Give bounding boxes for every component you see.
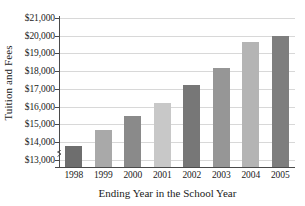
bar-slot [118,16,148,167]
plot-area [59,16,295,168]
y-axis-tick-label: $16,000 [25,102,55,112]
y-axis-tick-label: $20,000 [25,31,55,41]
y-axis-tick-label: $18,000 [25,66,55,76]
x-axis-tick-label: 2001 [148,170,178,184]
x-axis-tick-label: 2005 [266,170,296,184]
bar-slot [177,16,207,167]
y-axis-tick-label: $15,000 [25,119,55,129]
bar-1998 [65,146,82,167]
bar-2004 [242,42,259,167]
bar-slot [236,16,266,167]
x-axis-tick-label: 2003 [207,170,237,184]
bar-slot [207,16,237,167]
y-axis-tick-label: $14,000 [25,137,55,147]
y-axis-tick-label: $19,000 [25,48,55,58]
bar-2001 [154,103,171,167]
x-axis-tick-label: 2004 [236,170,266,184]
bar-slot [148,16,178,167]
y-axis-tick-labels: $13,000$14,000$15,000$16,000$17,000$18,0… [16,14,57,150]
y-axis-tick-label: $21,000 [25,13,55,23]
y-axis-tick-label: $13,000 [25,155,55,165]
x-axis-tick-label: 2002 [177,170,207,184]
y-axis-title: Tuition and Fees [0,0,16,166]
x-axis-line [55,167,295,168]
x-axis-tick-label: 1999 [89,170,119,184]
bar-2003 [213,68,230,167]
x-axis-tick-label: 1998 [59,170,89,184]
bar-2005 [272,36,289,167]
bar-1999 [95,130,112,167]
x-axis-title: Ending Year in the School Year [40,187,295,199]
bar-slot [266,16,296,167]
bar-slot [89,16,119,167]
bars-layer [59,16,295,167]
bar-slot [59,16,89,167]
y-axis-title-label: Tuition and Fees [2,45,14,120]
bar-2000 [124,116,141,167]
y-axis-tick-label: $17,000 [25,84,55,94]
x-axis-tick-label: 2000 [118,170,148,184]
x-axis-tick-labels: 19981999200020012002200320042005 [59,170,295,184]
bar-2002 [183,85,200,167]
tuition-bar-chart: Tuition and Fees $13,000$14,000$15,000$1… [0,0,305,206]
